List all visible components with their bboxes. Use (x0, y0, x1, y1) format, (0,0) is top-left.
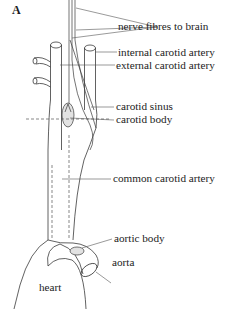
label-internal-carotid: internal carotid artery (118, 46, 215, 58)
nerve-fibres-shape (69, 0, 96, 150)
external-carotid-artery-shape (33, 42, 62, 150)
label-carotid-sinus: carotid sinus (116, 100, 173, 112)
common-carotid-artery-shape (48, 135, 84, 240)
panel-label: A (12, 3, 21, 17)
label-carotid-body: carotid body (116, 113, 173, 125)
label-heart: heart (39, 281, 62, 293)
label-aorta: aorta (112, 256, 134, 268)
carotid-body-glomus (62, 103, 74, 127)
label-external-carotid: external carotid artery (116, 59, 215, 71)
carotid-aortic-body-diagram: A (0, 0, 240, 309)
label-common-carotid: common carotid artery (113, 172, 215, 184)
aortic-body-glomus (70, 247, 84, 255)
aortic-arch-shape (14, 240, 99, 309)
internal-carotid-artery-shape (84, 45, 97, 160)
label-nerve-fibres: nerve fibres to brain (118, 20, 209, 32)
label-aortic-body: aortic body (114, 232, 165, 244)
